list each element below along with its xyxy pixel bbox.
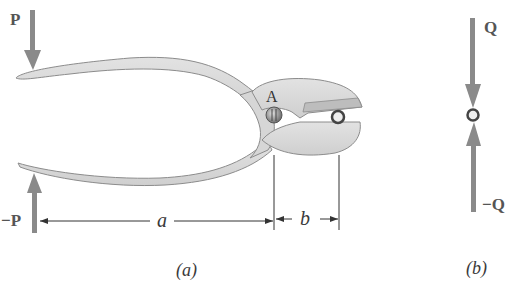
caption-a: (a): [176, 261, 197, 279]
pivot-a-label: A: [266, 89, 278, 105]
force-p-arrow: [24, 10, 41, 70]
force-q-arrow: [465, 18, 481, 108]
lower-handle: [18, 142, 272, 186]
force-neg-p-label: −P: [1, 212, 21, 229]
gripped-object: [332, 111, 344, 123]
force-neg-q-arrow: [466, 122, 481, 212]
dimension-b-label: b: [300, 208, 310, 228]
pivot-pin-a: [266, 107, 282, 123]
force-p-label: P: [10, 11, 20, 28]
lower-jaw: [262, 122, 360, 155]
pliers-diagram: [0, 0, 514, 294]
upper-handle: [16, 57, 268, 116]
force-neg-q-label: −Q: [482, 196, 505, 213]
force-q-label: Q: [484, 19, 497, 36]
dimension-a-label: a: [157, 210, 167, 230]
caption-b: (b): [466, 259, 487, 277]
force-neg-p-arrow: [27, 173, 42, 233]
particle: [468, 110, 479, 121]
